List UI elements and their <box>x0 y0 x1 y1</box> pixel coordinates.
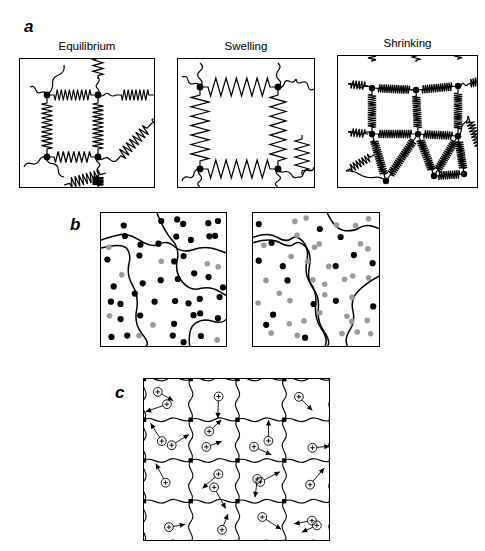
panel-b-left-domain-map <box>100 212 227 347</box>
subpanel-title-equilibrium: Equilibrium <box>19 41 155 53</box>
panel-label-b: b <box>70 216 80 233</box>
subpanel-title-shrinking: Shrinking <box>337 38 478 50</box>
panel-a-swelling-diagram <box>177 58 315 188</box>
panel-a-equilibrium-diagram <box>19 58 155 188</box>
panel-c-ionic-mesh-diagram <box>143 378 330 541</box>
subpanel-title-swelling: Swelling <box>177 41 315 53</box>
panel-b-right-domain-map <box>252 212 380 347</box>
panel-label-c: c <box>115 384 124 401</box>
figure-root: a Equilibrium Swelling Shrinking b c <box>0 0 485 551</box>
panel-label-a: a <box>24 18 33 35</box>
panel-a-shrinking-diagram <box>337 55 478 188</box>
